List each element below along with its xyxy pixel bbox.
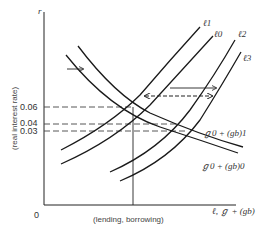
origin-label: 0: [34, 210, 39, 220]
interest-rate-diagram: r (real interest rate) 0.06 0.04 0.03 0 …: [0, 0, 262, 234]
label-l1: ℓ1: [203, 18, 211, 28]
label-l0: ℓ0: [214, 29, 223, 39]
tick-0-06: 0.06: [20, 102, 38, 112]
x-axis-title: (lending, borrowing): [93, 215, 164, 224]
label-l3: ℓ3: [243, 53, 252, 63]
tick-0-03: 0.03: [20, 126, 38, 136]
label-demand-0: ℊ0 + (gb)0: [201, 161, 245, 172]
label-demand-1: ℊ0 + (gb)1: [203, 128, 247, 139]
x-axis-symbol: ℓ, ℊ + (gb): [212, 206, 255, 217]
y-axis-title: (real interest rate): [10, 87, 19, 150]
supply-curve-l0: [61, 36, 213, 164]
demand-curve-0: [66, 55, 238, 153]
supply-curve-l1: [61, 27, 200, 150]
label-l2: ℓ2: [238, 29, 247, 39]
y-axis-symbol: r: [38, 6, 42, 16]
